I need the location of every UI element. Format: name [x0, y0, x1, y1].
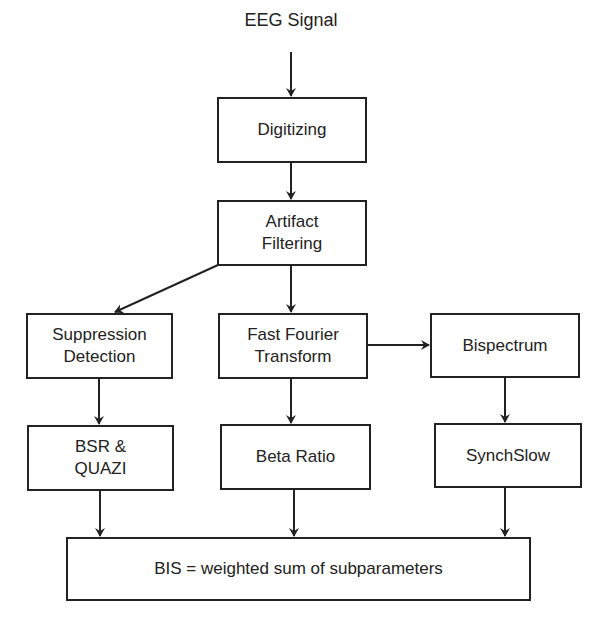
bsr-quazi-node: BSR & QUAZI	[27, 425, 174, 491]
suppression-detection-node: Suppression Detection	[26, 313, 173, 379]
beta-ratio-node: Beta Ratio	[220, 424, 371, 490]
artifact-filtering-node: Artifact Filtering	[217, 200, 367, 266]
connector-arrows	[0, 0, 598, 621]
fft-node: Fast Fourier Transform	[218, 313, 368, 379]
eeg-signal-label: EEG Signal	[231, 10, 351, 31]
bis-output-node: BIS = weighted sum of subparameters	[66, 537, 531, 601]
synchslow-node: SynchSlow	[434, 423, 582, 488]
digitizing-node: Digitizing	[217, 97, 367, 163]
bispectrum-node: Bispectrum	[430, 313, 580, 378]
